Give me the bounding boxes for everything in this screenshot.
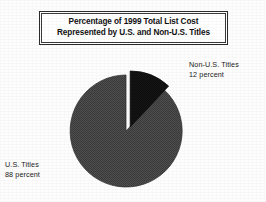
slice-label-us: U.S. Titles 88 percent (5, 160, 40, 179)
slice-label-us-value: 88 percent (5, 170, 40, 180)
slice-label-us-name: U.S. Titles (5, 160, 40, 170)
slice-label-non-us-value: 12 percent (189, 70, 239, 80)
slice-label-non-us: Non-U.S. Titles 12 percent (189, 60, 239, 79)
chart-title-line-1: Percentage of 1999 Total List Cost (46, 17, 221, 28)
chart-title-inner: Percentage of 1999 Total List Cost Repre… (41, 13, 226, 43)
pie-slice-us (70, 75, 182, 187)
chart-title-line-2: Represented by U.S. and Non-U.S. Titles (46, 28, 221, 39)
chart-figure: Percentage of 1999 Total List Cost Repre… (0, 0, 266, 202)
chart-title-box: Percentage of 1999 Total List Cost Repre… (39, 11, 228, 45)
slice-label-non-us-name: Non-U.S. Titles (189, 60, 239, 70)
